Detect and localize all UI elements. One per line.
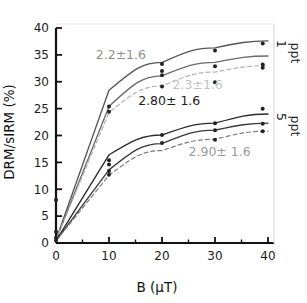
- chart-data-points: [54, 42, 265, 243]
- annot-2-3: 2.3±1.6: [173, 77, 223, 92]
- data-point: [107, 104, 111, 108]
- y-tick-label: 5: [41, 209, 49, 223]
- data-point: [107, 169, 111, 173]
- data-point: [160, 73, 164, 77]
- data-point: [107, 173, 111, 177]
- data-point: [213, 138, 217, 142]
- series-line: [56, 123, 268, 241]
- legend-1ppt-line2: ppt: [288, 43, 303, 64]
- data-point: [54, 230, 58, 234]
- y-tick-label: 20: [34, 129, 49, 143]
- x-tick-label: 30: [207, 249, 222, 263]
- y-tick-label: 15: [34, 156, 49, 170]
- data-point: [54, 236, 58, 240]
- x-tick-label: 0: [52, 249, 60, 263]
- data-point: [160, 141, 164, 145]
- x-tick-label: 10: [101, 249, 116, 263]
- legend-1ppt: 1ppt: [274, 40, 303, 63]
- y-tick-label: 25: [34, 102, 49, 116]
- x-tick-label: 40: [260, 249, 275, 263]
- data-point: [160, 62, 164, 66]
- y-tick-label: 30: [34, 75, 49, 89]
- data-point: [261, 66, 265, 70]
- annot-2-80: 2.80± 1.6: [138, 93, 200, 108]
- y-tick-label: 10: [34, 183, 49, 197]
- data-point: [160, 69, 164, 73]
- y-tick-label: 0: [41, 236, 49, 250]
- chart-legend: 1ppt5ppt: [274, 40, 303, 136]
- annot-2-2: 2.2±1.6: [96, 47, 146, 62]
- legend-5ppt: 5ppt: [274, 113, 303, 136]
- data-point: [160, 85, 164, 89]
- data-point: [107, 110, 111, 114]
- annot-2-90: 2.90± 1.6: [189, 144, 251, 159]
- data-point: [261, 107, 265, 111]
- x-axis-title: B (μT): [137, 279, 178, 295]
- y-tick-label: 35: [34, 48, 49, 62]
- data-point: [213, 64, 217, 68]
- data-point: [107, 163, 111, 167]
- data-point: [160, 133, 164, 137]
- data-point: [107, 158, 111, 162]
- chart-annotations: 2.2±1.62.3±1.62.80± 1.62.90± 1.6: [96, 47, 251, 159]
- data-point: [54, 198, 58, 202]
- legend-1ppt-line1: 1: [274, 40, 289, 48]
- y-tick-label: 40: [34, 21, 49, 35]
- legend-5ppt-line2: ppt: [288, 116, 303, 137]
- data-point: [261, 42, 265, 46]
- data-point: [261, 129, 265, 133]
- data-point: [213, 128, 217, 132]
- data-point: [261, 122, 265, 126]
- legend-5ppt-line1: 5: [274, 113, 289, 121]
- figure-container: 0510152025303540010203040 2.2±1.62.3±1.6…: [0, 0, 307, 303]
- x-tick-label: 20: [154, 249, 169, 263]
- data-point: [213, 121, 217, 125]
- chart-plot: 0510152025303540010203040 2.2±1.62.3±1.6…: [0, 0, 307, 303]
- y-axis-title: DRM/sIRM (%): [1, 84, 17, 180]
- data-point: [213, 49, 217, 53]
